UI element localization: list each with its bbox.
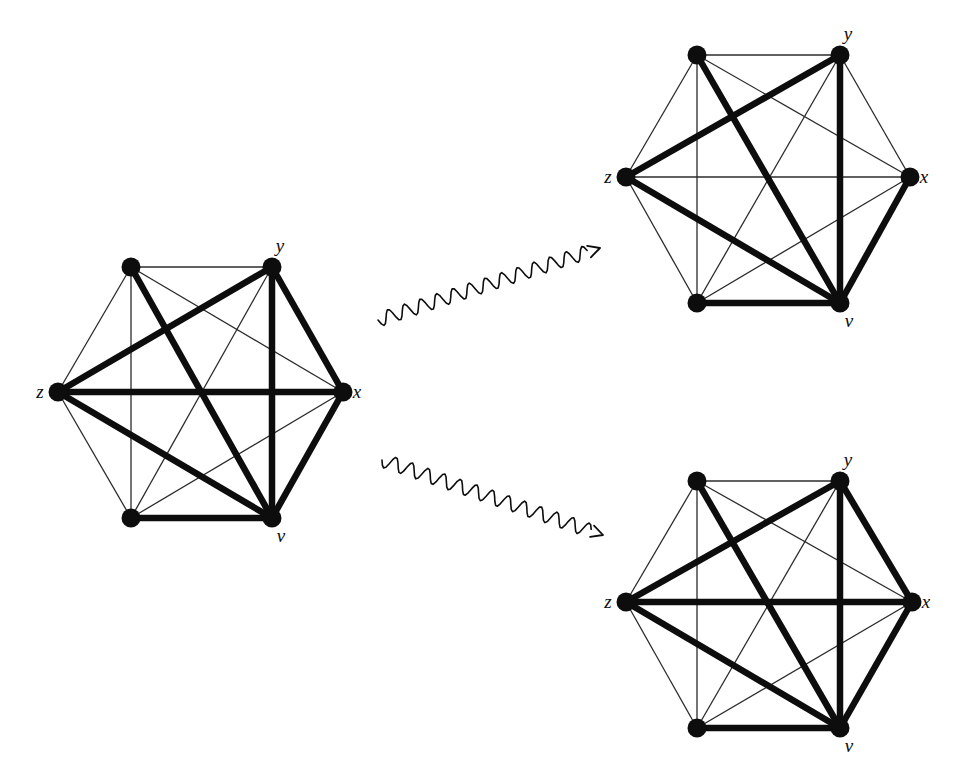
vertex-label-y: y	[274, 235, 285, 256]
vertex-label-x: x	[919, 166, 929, 187]
vertex-label-x: x	[921, 591, 931, 612]
vertex-label-v: v	[845, 310, 854, 331]
vertex-a	[688, 46, 707, 65]
vertex-b	[122, 509, 141, 528]
vertex-x	[334, 383, 353, 402]
vertex-label-v: v	[845, 735, 854, 756]
vertex-y	[831, 46, 850, 65]
vertex-label-v: v	[277, 525, 286, 546]
vertex-x	[903, 593, 922, 612]
vertex-label-y: y	[842, 23, 853, 44]
vertex-z	[617, 593, 636, 612]
vertex-b	[688, 294, 707, 313]
diagram-background	[0, 0, 965, 777]
vertex-b	[688, 719, 707, 738]
vertex-label-z: z	[603, 591, 612, 612]
vertex-label-y: y	[842, 449, 853, 470]
vertex-x	[901, 168, 920, 187]
graph-diagram-svg: yxvzyxvzyxvz	[0, 0, 965, 777]
vertex-a	[688, 472, 707, 491]
vertex-y	[263, 258, 282, 277]
vertex-a	[122, 258, 141, 277]
vertex-label-x: x	[352, 381, 362, 402]
vertex-label-z: z	[603, 166, 612, 187]
vertex-z	[617, 168, 636, 187]
vertex-z	[49, 383, 68, 402]
diagram-canvas: yxvzyxvzyxvz	[0, 0, 965, 777]
vertex-y	[831, 472, 850, 491]
vertex-label-z: z	[35, 381, 44, 402]
